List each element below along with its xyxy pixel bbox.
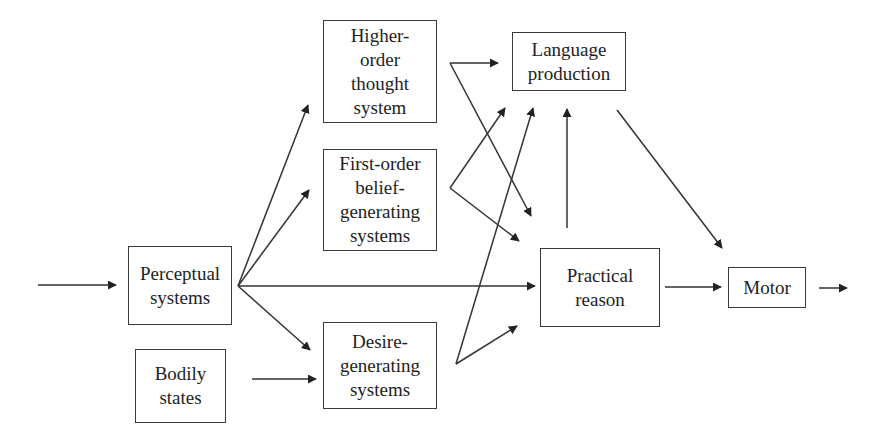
node-bodily-states: Bodily states [135,349,226,423]
edge-perceptual-to-first-order [238,190,309,286]
node-motor: Motor [728,267,806,308]
edge-perceptual-to-desire [238,286,310,350]
edge-language-to-motor [617,110,722,248]
edges-layer [0,0,882,444]
node-label: Practical reason [567,264,633,312]
node-label: Higher- order thought system [351,24,410,120]
cognitive-architecture-diagram: Perceptual systems Bodily states Higher-… [0,0,882,444]
node-label: Language production [528,38,610,86]
node-label: Motor [743,276,791,300]
node-label: Perceptual systems [140,262,220,310]
edge-first-order-to-language [450,108,505,188]
node-language-production: Language production [512,32,626,91]
node-perceptual-systems: Perceptual systems [128,246,232,325]
node-practical-reason: Practical reason [540,248,660,327]
node-label: Bodily states [155,362,207,410]
node-desire-generating-systems: Desire- generating systems [323,322,437,409]
edge-perceptual-to-higher-order [238,105,308,286]
edge-first-order-to-practical [450,188,519,241]
node-first-order-belief-generating-systems: First-order belief- generating systems [323,149,437,251]
node-label: Desire- generating systems [340,330,420,402]
node-higher-order-thought-system: Higher- order thought system [323,20,437,123]
node-label: First-order belief- generating systems [339,152,420,248]
